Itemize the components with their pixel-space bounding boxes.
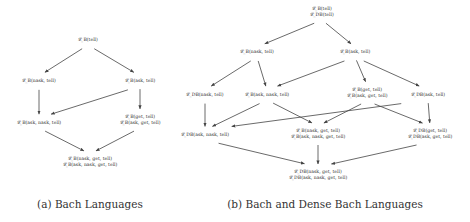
- panel-b-edge: [356, 60, 365, 81]
- panel-b-node: 𝓛_B(get, tell)𝓛_B(ask, get, tell): [347, 87, 388, 99]
- node-label: 𝓛_DB(ask, get, tell): [408, 134, 453, 140]
- panel-b-edge: [331, 145, 416, 164]
- panel-b-node: 𝓛_DB(ask, nask, tell): [181, 132, 229, 138]
- node-label: 𝓛_B(nask, tell): [240, 49, 274, 55]
- panel-b-node: 𝓛_DB(get, tell)𝓛_DB(ask, get, tell): [408, 128, 453, 140]
- panel-a-edge: [45, 49, 82, 73]
- node-label: 𝓛_DB(nask, tell): [186, 92, 223, 98]
- panel-a-edge: [51, 90, 128, 114]
- node-label: 𝓛_DB(ask, nask, tell): [181, 132, 229, 138]
- panel-a-edge: [94, 49, 134, 73]
- node-label: 𝓛_B(nask, tell): [22, 78, 56, 84]
- panel-b-caption: (b) Bach and Dense Bach Languages: [227, 198, 423, 210]
- panel-a-node: 𝓛_B(tell): [78, 37, 98, 43]
- panel-a-node: 𝓛_B(get, tell)𝓛_B(ask, get, tell): [120, 114, 161, 126]
- node-label: 𝓛_B(ask, nask, tell): [17, 120, 61, 126]
- node-label: 𝓛_DB(ask, nask, get, tell): [289, 175, 347, 181]
- panel-b-node: 𝓛_DB(ask, tell): [411, 92, 445, 98]
- panel-a-edge: [45, 131, 84, 151]
- panel-a-node: 𝓛_B(nask, tell): [22, 78, 56, 84]
- panel-b-edge: [232, 104, 401, 127]
- panel-b-edge: [212, 104, 259, 127]
- diagram-edges: [0, 0, 470, 222]
- panel-b-node: 𝓛_B(ask, nask, tell): [245, 92, 289, 98]
- panel-a-node: 𝓛_B(ask, nask, tell): [17, 120, 61, 126]
- panel-a-node: 𝓛_B(ask, tell): [125, 78, 156, 84]
- panel-a-edges: [39, 49, 140, 151]
- node-label: 𝓛_B(tell): [78, 37, 98, 43]
- panel-b-edges: [205, 23, 430, 164]
- panel-b-edge: [278, 61, 345, 86]
- panel-a-caption: (a) Bach Languages: [37, 198, 143, 210]
- panel-b-edge: [258, 61, 266, 86]
- panel-b-edge: [265, 23, 314, 44]
- panel-b-edge: [375, 104, 423, 123]
- panel-b-node: 𝓛_DB(nask, get, tell)𝓛_DB(ask, nask, get…: [289, 169, 347, 181]
- node-label: 𝓛_DB(tell): [310, 12, 333, 18]
- panel-b-node: 𝓛_B(nask, get, tell)𝓛_B(ask, nask, get, …: [291, 128, 346, 140]
- panel-b-edge: [326, 23, 351, 44]
- node-label: 𝓛_B(ask, get, tell): [347, 93, 388, 99]
- panel-a-edge: [96, 131, 134, 151]
- node-label: 𝓛_B(ask, nask, tell): [245, 92, 289, 98]
- panel-b-edge: [219, 143, 305, 164]
- panel-b-edge: [211, 61, 251, 86]
- panel-b-edge: [364, 61, 419, 86]
- panel-b-node: 𝓛_B(ask, tell): [340, 49, 371, 55]
- panel-a-node: 𝓛_B(nask, get, tell)𝓛_B(ask, nask, get, …: [63, 156, 118, 168]
- panel-b-node: 𝓛_B(tell)𝓛_DB(tell): [310, 6, 333, 18]
- node-label: 𝓛_B(ask, tell): [125, 78, 156, 84]
- node-label: 𝓛_B(ask, get, tell): [120, 120, 161, 126]
- panel-b-edge: [428, 103, 430, 123]
- node-label: 𝓛_B(ask, tell): [340, 49, 371, 55]
- panel-b-node: 𝓛_B(nask, tell): [240, 49, 274, 55]
- panel-b-node: 𝓛_DB(nask, tell): [186, 92, 223, 98]
- node-label: 𝓛_B(ask, nask, get, tell): [63, 162, 118, 168]
- node-label: 𝓛_B(ask, nask, get, tell): [291, 134, 346, 140]
- node-label: 𝓛_DB(ask, tell): [411, 92, 445, 98]
